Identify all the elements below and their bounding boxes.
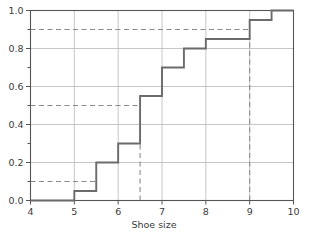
chart-canvas: 456789100.00.20.40.60.81.0 Shoe size [0,0,309,233]
y-tick-label: 0.8 [8,43,23,54]
y-tick-label: 1.0 [8,5,23,16]
y-tick-label: 0.4 [8,119,23,130]
x-tick-label: 5 [71,206,77,217]
y-tick-label: 0.2 [8,157,23,168]
x-tick-label: 6 [115,206,121,217]
plot-background [0,0,309,233]
x-tick-label: 8 [203,206,209,217]
x-tick-label: 10 [287,206,299,217]
x-axis-title: Shoe size [131,219,176,230]
y-tick-label: 0.0 [8,195,23,206]
x-tick-label: 9 [247,206,253,217]
x-tick-label: 7 [159,206,165,217]
x-tick-label: 4 [27,206,33,217]
y-tick-label: 0.6 [8,81,23,92]
ecdf-chart: 456789100.00.20.40.60.81.0 Shoe size [0,0,309,233]
